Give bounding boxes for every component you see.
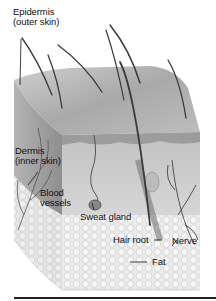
- label-nerve: Nerve: [172, 236, 197, 246]
- label-blood-vessels: Blood vessels: [40, 188, 71, 208]
- label-sweat-gland: Sweat gland: [80, 212, 131, 222]
- label-epidermis: Epidermis (outer skin): [13, 7, 59, 27]
- label-fat: Fat: [152, 257, 165, 267]
- label-dermis: Dermis (inner skin): [15, 146, 61, 166]
- bottom-divider: [14, 297, 216, 299]
- skin-diagram: Epidermis (outer skin) Dermis (inner ski…: [0, 0, 216, 301]
- label-hair-root: Hair root: [113, 235, 149, 245]
